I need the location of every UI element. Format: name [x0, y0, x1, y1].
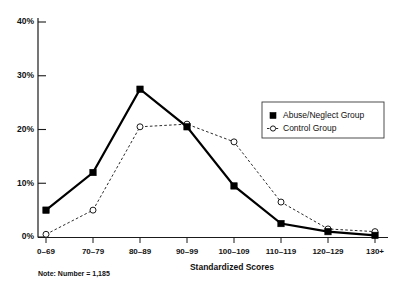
x-axis-ticks	[46, 238, 375, 244]
x-tick-label: 70–79	[82, 247, 105, 256]
data-point-abuse-neglect	[325, 228, 331, 234]
legend-label-abuse-neglect: Abuse/Neglect Group	[283, 110, 365, 120]
legend-marker-abuse-neglect-icon	[270, 113, 276, 119]
line-chart: 40% 30% 20% 10% 0% 0–69 70–79 80–89 90–9…	[0, 0, 395, 291]
legend-label-control: Control Group	[283, 123, 337, 133]
y-tick-label: 20%	[17, 124, 34, 134]
y-tick-label: 30%	[17, 70, 34, 80]
x-tick-label: 0–69	[37, 247, 55, 256]
x-axis-tick-labels: 0–69 70–79 80–89 90–99 100–109 110–119 1…	[37, 247, 384, 256]
x-tick-label: 130+	[366, 247, 384, 256]
data-point-abuse-neglect	[90, 169, 96, 175]
data-point-abuse-neglect	[372, 232, 378, 238]
data-point-abuse-neglect	[231, 183, 237, 189]
x-tick-label: 100–109	[218, 247, 250, 256]
y-axis-tick-labels: 40% 30% 20% 10% 0%	[17, 16, 34, 241]
data-point-control	[231, 139, 237, 145]
chart-note: Note: Number = 1,185	[38, 270, 110, 278]
x-tick-label: 120–129	[312, 247, 344, 256]
control-group-line	[46, 124, 375, 234]
control-group-markers	[43, 121, 378, 237]
y-tick-label: 0%	[22, 231, 35, 241]
chart-container: 40% 30% 20% 10% 0% 0–69 70–79 80–89 90–9…	[0, 0, 395, 291]
x-tick-label: 90–99	[176, 247, 199, 256]
y-axis-ticks	[38, 22, 46, 237]
data-point-abuse-neglect	[278, 220, 284, 226]
x-tick-label: 80–89	[129, 247, 152, 256]
y-tick-label: 40%	[17, 16, 34, 26]
y-tick-label: 10%	[17, 178, 34, 188]
data-point-abuse-neglect	[184, 124, 190, 130]
data-point-control	[90, 207, 96, 213]
x-tick-label: 110–119	[266, 247, 297, 256]
x-axis-title: Standardized Scores	[190, 262, 274, 272]
data-point-abuse-neglect	[43, 207, 49, 213]
data-point-control	[137, 124, 143, 130]
data-point-control	[43, 231, 49, 237]
data-point-abuse-neglect	[137, 86, 143, 92]
data-point-control	[278, 199, 284, 205]
chart-legend: Abuse/Neglect Group Control Group	[262, 102, 384, 138]
